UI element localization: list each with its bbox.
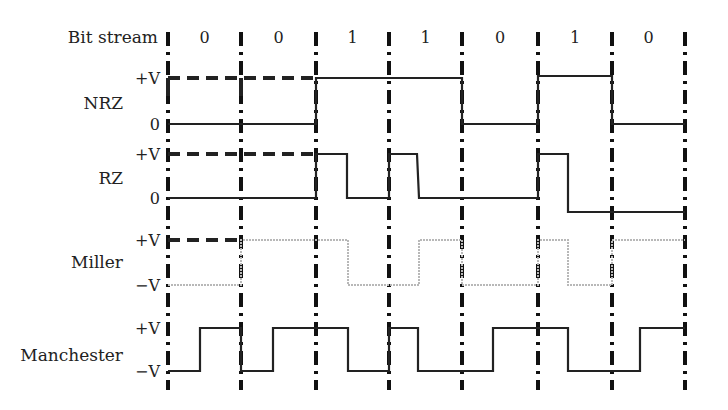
level-label: +V <box>135 69 160 88</box>
bit-stream-label: Bit stream <box>68 27 158 47</box>
bit-value: 0 <box>643 28 653 47</box>
waveform-miller <box>168 240 685 285</box>
line-coding-diagram: Bit stream NRZ+V0RZ+V0Miller+V−VManchest… <box>0 0 728 410</box>
level-label: 0 <box>150 189 160 208</box>
level-label: −V <box>135 362 160 381</box>
row-label-nrz: NRZ <box>84 93 124 113</box>
bit-values: 0011010 <box>199 28 653 47</box>
waveform-rz <box>168 154 685 212</box>
bit-value: 1 <box>570 28 580 47</box>
level-label: 0 <box>150 115 160 134</box>
waveform-nrz <box>168 76 685 124</box>
bit-value: 1 <box>420 28 430 47</box>
level-label: +V <box>135 145 160 164</box>
waveform-manchester <box>168 328 685 371</box>
level-label: +V <box>135 319 160 338</box>
waveform-canvas: Bit stream NRZ+V0RZ+V0Miller+V−VManchest… <box>0 0 728 410</box>
level-label: −V <box>135 276 160 295</box>
row-label-miller: Miller <box>71 252 124 272</box>
row-label-rz: RZ <box>98 168 123 188</box>
row-label-manchester: Manchester <box>20 345 124 365</box>
labels: Bit stream NRZ+V0RZ+V0Miller+V−VManchest… <box>20 27 160 381</box>
bit-value: 0 <box>273 28 283 47</box>
level-label: +V <box>135 231 160 250</box>
bit-value: 0 <box>495 28 505 47</box>
waveforms <box>168 76 685 371</box>
bit-value: 0 <box>199 28 209 47</box>
bit-value: 1 <box>347 28 357 47</box>
